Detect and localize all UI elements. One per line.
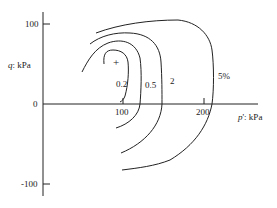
yield-contour-chart: 100 0 -100 100 200 q: kPa p': kPa 0.2 0.…	[0, 0, 277, 208]
y-tick-label-100: 100	[25, 19, 39, 29]
curve-label-5pct: 5%	[218, 71, 231, 81]
x-axis-title: p': kPa	[237, 112, 262, 122]
y-tick-label-0: 0	[33, 99, 38, 109]
contour-5pct	[96, 20, 214, 170]
contour-0.5	[82, 41, 141, 128]
x-tick-label-200: 200	[196, 107, 210, 117]
curve-label-0.2: 0.2	[116, 79, 127, 89]
y-axis-title: q: kPa	[8, 60, 31, 70]
y-tick-label-neg100: -100	[21, 179, 38, 189]
curve-label-2: 2	[170, 76, 175, 86]
curve-label-0.5: 0.5	[145, 80, 157, 90]
initial-state-marker: +	[113, 56, 119, 68]
x-tick-label-100: 100	[115, 107, 129, 117]
